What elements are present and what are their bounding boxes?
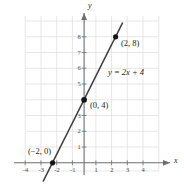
point-label-neg2-0: (−2, 0) [28, 147, 51, 156]
coordinate-plane-figure: y x -4 -3 -2 -1 1 2 3 4 8 7 6 5 3 2 1 (2… [0, 0, 184, 185]
point-label-2-8: (2, 8) [121, 39, 139, 48]
x-tick-label-2: 2 [110, 167, 113, 174]
y-tick-label-6: 6 [78, 65, 81, 72]
point-label-0-4: (0, 4) [90, 101, 108, 110]
y-axis-label: y [88, 2, 92, 10]
y-tick-label-5: 5 [78, 81, 81, 88]
x-tick-label-neg2: -2 [54, 167, 59, 174]
x-tick-label-neg1: -1 [70, 167, 75, 174]
data-point-neg2-0 [50, 160, 55, 165]
data-point-2-8 [113, 34, 118, 39]
x-tick-label-3: 3 [126, 167, 129, 174]
y-tick-label-2: 2 [78, 128, 81, 135]
y-tick-label-8: 8 [78, 34, 81, 41]
y-tick-label-1: 1 [78, 144, 81, 151]
graph-canvas [0, 0, 184, 185]
x-axis-arrowhead [163, 160, 170, 166]
x-tick-label-neg4: -4 [23, 167, 28, 174]
x-tick-label-4: 4 [142, 167, 145, 174]
y-tick-label-7: 7 [78, 50, 81, 57]
x-tick-label-neg3: -3 [39, 167, 44, 174]
x-axis-label: x [174, 157, 178, 165]
data-point-0-4 [81, 97, 87, 103]
y-axis-arrowhead [81, 13, 87, 20]
y-tick-label-3: 3 [78, 113, 81, 120]
equation-label: y = 2x + 4 [108, 68, 144, 77]
x-tick-label-1: 1 [95, 167, 98, 174]
